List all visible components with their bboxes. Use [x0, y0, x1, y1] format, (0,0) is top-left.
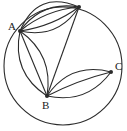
- vertex-label-B: B: [42, 100, 49, 111]
- graph-vertex-A: [18, 29, 22, 33]
- graph-edge: [20, 7, 79, 31]
- graph-edge: [20, 7, 79, 33]
- graph-edge: [47, 7, 79, 96]
- graph-canvas: [0, 0, 127, 131]
- vertex-label-C: C: [115, 61, 122, 72]
- graph-vertex-B: [45, 94, 49, 98]
- graph-vertex-C: [109, 70, 113, 74]
- vertex-label-A: A: [8, 21, 16, 32]
- graph-vertex-T: [77, 5, 81, 9]
- graph-figure: ACB: [0, 0, 127, 131]
- graph-edge: [20, 7, 79, 31]
- graph-edge: [20, 31, 47, 96]
